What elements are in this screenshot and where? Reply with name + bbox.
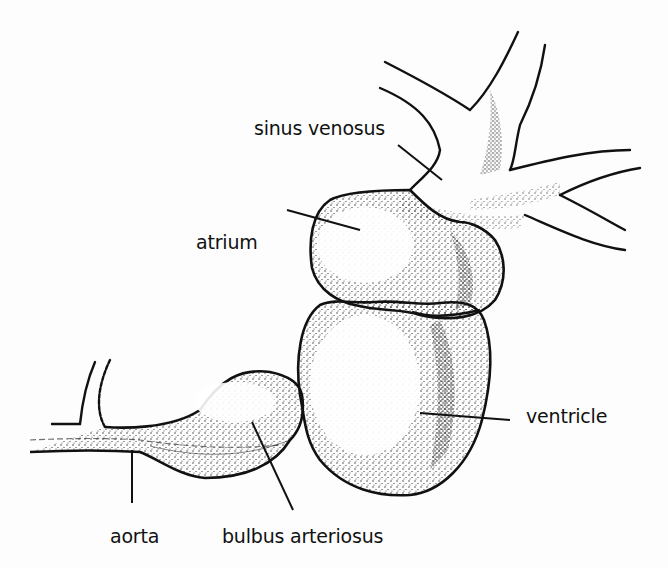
ventricle-shape: [298, 301, 490, 495]
diagram-canvas: sinus venosus atrium ventricle aorta bul…: [0, 0, 668, 568]
label-aorta: aorta: [110, 527, 159, 546]
label-ventricle: ventricle: [526, 407, 607, 426]
label-atrium: atrium: [196, 233, 258, 252]
label-bulbus-arteriosus: bulbus arteriosus: [222, 527, 383, 546]
aortic-branches: [52, 360, 110, 427]
heart-illustration: [0, 0, 668, 568]
label-sinus-venosus: sinus venosus: [254, 119, 385, 138]
